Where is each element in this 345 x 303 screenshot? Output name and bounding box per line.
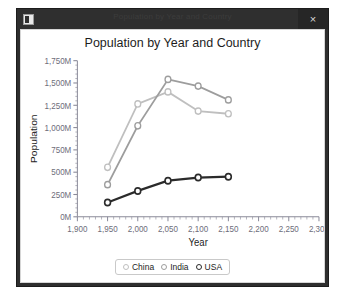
x-tick-label: 2,300	[309, 224, 324, 234]
chart-title: Population by Year and Country	[21, 36, 324, 50]
y-tick-label: 1,000M	[44, 123, 71, 133]
x-tick-label: 2,050	[158, 224, 178, 234]
window-client-area: Population by Year and Country 0M250M500…	[20, 29, 325, 283]
y-tick-label: 1,750M	[44, 56, 71, 66]
x-tick-label: 1,950	[98, 224, 118, 234]
data-point-india-2100[interactable]	[195, 83, 201, 89]
application-window: Population by Year and Country × Populat…	[16, 8, 329, 287]
x-tick-label: 2,200	[249, 224, 269, 234]
data-point-india-1950[interactable]	[105, 182, 111, 188]
data-point-usa-2100[interactable]	[195, 174, 201, 180]
data-point-china-1950[interactable]	[105, 164, 111, 170]
legend-label-china: China	[132, 262, 154, 272]
line-chart: 0M250M500M750M1,000M1,250M1,500M1,750M1,…	[21, 52, 324, 258]
y-tick-label: 500M	[51, 167, 71, 177]
legend-marker-india	[161, 264, 167, 270]
data-point-china-2050[interactable]	[165, 89, 171, 95]
y-tick-label: 1,250M	[44, 100, 71, 110]
data-point-china-2100[interactable]	[195, 108, 201, 114]
x-tick-label: 2,100	[188, 224, 208, 234]
legend-marker-china	[123, 264, 129, 270]
data-point-usa-2000[interactable]	[135, 188, 141, 194]
y-axis-label: Population	[28, 114, 39, 163]
plot-area: 0M250M500M750M1,000M1,250M1,500M1,750M1,…	[21, 52, 324, 258]
legend-marker-usa	[196, 264, 202, 270]
data-point-usa-2050[interactable]	[165, 178, 171, 184]
y-tick-label: 250M	[51, 189, 71, 199]
y-tick-label: 1,500M	[44, 78, 71, 88]
x-tick-label: 2,250	[279, 224, 299, 234]
chart-legend: China India USA	[21, 259, 324, 275]
legend-label-india: India	[170, 262, 188, 272]
y-tick-label: 750M	[51, 145, 71, 155]
legend-item-usa[interactable]: USA	[196, 262, 222, 272]
series-line-china	[108, 92, 229, 167]
legend-item-india[interactable]: India	[161, 262, 188, 272]
data-point-usa-2150[interactable]	[225, 174, 231, 180]
y-tick-label: 0M	[60, 212, 71, 222]
data-point-india-2050[interactable]	[165, 76, 171, 82]
legend-label-usa: USA	[205, 262, 222, 272]
close-icon[interactable]: ×	[298, 9, 328, 29]
legend-item-china[interactable]: China	[123, 262, 154, 272]
window-title: Population by Year and Country	[17, 12, 328, 21]
legend-box: China India USA	[115, 259, 230, 275]
x-tick-label: 1,900	[67, 224, 87, 234]
window-titlebar[interactable]: Population by Year and Country ×	[17, 9, 328, 29]
data-point-india-2000[interactable]	[135, 123, 141, 129]
x-tick-label: 2,150	[218, 224, 238, 234]
data-point-india-2150[interactable]	[225, 97, 231, 103]
x-axis-label: Year	[189, 237, 209, 248]
data-point-china-2000[interactable]	[135, 101, 141, 107]
x-tick-label: 2,000	[128, 224, 148, 234]
data-point-china-2150[interactable]	[225, 111, 231, 117]
desktop-background: Population by Year and Country × Populat…	[0, 0, 345, 303]
app-icon	[23, 14, 34, 25]
data-point-usa-1950[interactable]	[105, 199, 111, 205]
